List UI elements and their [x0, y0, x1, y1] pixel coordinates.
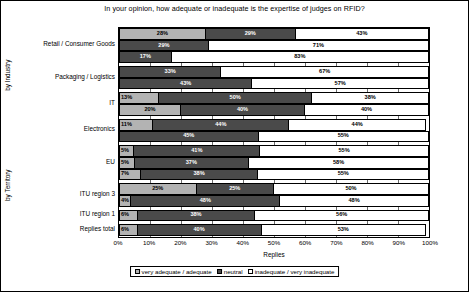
stacked-bar[interactable]: 4%48%48% — [119, 195, 429, 207]
bar-segment[interactable]: 5% — [119, 157, 135, 169]
bar-segment[interactable]: 25% — [197, 183, 275, 195]
plot-area: 28%29%43%29%71%17%83%33%67%43%57%13%50%3… — [118, 27, 430, 238]
stacked-bar[interactable]: 5%41%55% — [119, 145, 429, 157]
bar-segment[interactable]: 44% — [153, 119, 289, 131]
category-axis-labels: Retail / Consumer GoodsPackaging / Logis… — [0, 27, 115, 238]
bar-value-label: 37% — [135, 160, 249, 166]
bar-value-label: 48% — [280, 198, 428, 204]
bar-value-label: 40% — [181, 107, 304, 113]
bar-segment[interactable]: 7% — [119, 169, 141, 181]
category-label: EU — [106, 159, 115, 165]
category-label: Retail / Consumer Goods — [43, 41, 115, 47]
category-label: IT — [109, 100, 115, 106]
stacked-bar[interactable]: 6%40%53% — [119, 224, 429, 236]
bar-value-label: 6% — [121, 227, 129, 233]
bar-group: 28%29%43%29%71%17%83% — [119, 28, 429, 63]
stacked-bar[interactable]: 45%55% — [119, 131, 429, 143]
bar-segment[interactable]: 57% — [252, 78, 429, 90]
bar-segment[interactable]: 20% — [119, 104, 181, 116]
bar-segment[interactable]: 55% — [259, 131, 430, 143]
bar-segment[interactable]: 38% — [141, 169, 259, 181]
bar-segment[interactable]: 55% — [258, 169, 429, 181]
x-tick-label: 50% — [268, 240, 280, 246]
bar-segment[interactable]: 38% — [312, 92, 429, 104]
bar-segment[interactable]: 28% — [119, 28, 206, 40]
bar-segment[interactable]: 71% — [209, 40, 429, 52]
bar-series-container: 28%29%43%29%71%17%83%33%67%43%57%13%50%3… — [119, 28, 429, 237]
bar-group: 33%67%43%57% — [119, 66, 429, 89]
stacked-bar[interactable]: 25%25%50% — [119, 183, 429, 195]
bar-segment[interactable]: 43% — [296, 28, 429, 40]
bar-segment[interactable]: 43% — [119, 78, 252, 90]
axis-group-title-territory: by Territory — [5, 161, 11, 209]
bar-segment[interactable]: 11% — [119, 119, 153, 131]
bar-value-label: 55% — [260, 148, 428, 154]
x-axis-title: Replies — [118, 252, 430, 258]
x-tick-label: 20% — [174, 240, 186, 246]
stacked-bar[interactable]: 13%50%38% — [119, 92, 429, 104]
bar-value-label: 40% — [305, 107, 428, 113]
bar-value-label: 56% — [255, 213, 428, 219]
legend-item-very-adequate: very adequate / adequate — [135, 269, 212, 275]
category-label: ITU region 3 — [80, 191, 115, 197]
bar-value-label: 38% — [138, 213, 255, 219]
bar-value-label: 58% — [249, 160, 428, 166]
chart-title: In your opinion, how adequate or inadequ… — [0, 4, 469, 13]
bar-segment[interactable]: 58% — [249, 157, 429, 169]
bar-segment[interactable]: 48% — [131, 195, 280, 207]
bar-value-label: 38% — [312, 95, 428, 101]
stacked-bar[interactable]: 11%44%44% — [119, 119, 429, 131]
bar-value-label: 25% — [120, 186, 196, 192]
bar-group: 25%25%50%4%48%48% — [119, 183, 429, 206]
x-tick-label: 10% — [143, 240, 155, 246]
bar-segment[interactable]: 29% — [119, 40, 209, 52]
bar-segment[interactable]: 29% — [206, 28, 296, 40]
stacked-bar[interactable]: 5%37%58% — [119, 157, 429, 169]
bar-value-label: 33% — [120, 69, 220, 75]
bar-segment[interactable]: 6% — [119, 224, 138, 236]
category-label: ITU region 1 — [80, 211, 115, 217]
stacked-bar[interactable]: 28%29%43% — [119, 28, 429, 40]
stacked-bar[interactable]: 17%83% — [119, 51, 429, 63]
stacked-bar[interactable]: 7%38%55% — [119, 169, 429, 181]
bar-group: 11%44%44%45%55% — [119, 119, 429, 142]
bar-segment[interactable]: 5% — [119, 145, 134, 157]
bar-segment[interactable]: 33% — [119, 66, 221, 78]
chart-legend: very adequate / adequate neutral inadequ… — [130, 266, 340, 277]
bar-segment[interactable]: 44% — [289, 119, 425, 131]
bar-value-label: 5% — [121, 148, 129, 154]
bar-value-label: 40% — [138, 227, 261, 233]
bar-segment[interactable]: 55% — [260, 145, 429, 157]
stacked-bar[interactable]: 29%71% — [119, 40, 429, 52]
bar-value-label: 5% — [121, 160, 129, 166]
stacked-bar[interactable]: 43%57% — [119, 78, 429, 90]
bar-segment[interactable]: 25% — [119, 183, 197, 195]
bar-segment[interactable]: 45% — [119, 131, 259, 143]
x-tick-label: 0% — [114, 240, 123, 246]
bar-segment[interactable]: 40% — [138, 224, 262, 236]
bar-segment[interactable]: 38% — [138, 210, 256, 222]
bar-segment[interactable]: 40% — [305, 104, 429, 116]
bar-segment[interactable]: 83% — [172, 51, 429, 63]
bar-segment[interactable]: 50% — [274, 183, 429, 195]
legend-swatch-icon-neutral — [217, 269, 222, 274]
bar-segment[interactable]: 67% — [221, 66, 429, 78]
bar-segment[interactable]: 53% — [262, 224, 426, 236]
bar-value-label: 29% — [206, 31, 295, 37]
bar-segment[interactable]: 50% — [159, 92, 312, 104]
bar-segment[interactable]: 37% — [135, 157, 250, 169]
bar-segment[interactable]: 17% — [119, 51, 172, 63]
bar-segment[interactable]: 48% — [280, 195, 429, 207]
bar-segment[interactable]: 41% — [134, 145, 260, 157]
bar-segment[interactable]: 40% — [181, 104, 305, 116]
bar-value-label: 44% — [153, 122, 288, 128]
stacked-bar[interactable]: 20%40%40% — [119, 104, 429, 116]
bar-group: 6%38%56% — [119, 210, 429, 222]
bar-segment[interactable]: 4% — [119, 195, 131, 207]
bar-segment[interactable]: 6% — [119, 210, 138, 222]
stacked-bar[interactable]: 6%38%56% — [119, 210, 429, 222]
bar-segment[interactable]: 56% — [255, 210, 429, 222]
bar-value-label: 67% — [221, 69, 428, 75]
stacked-bar[interactable]: 33%67% — [119, 66, 429, 78]
bar-segment[interactable]: 13% — [119, 92, 159, 104]
